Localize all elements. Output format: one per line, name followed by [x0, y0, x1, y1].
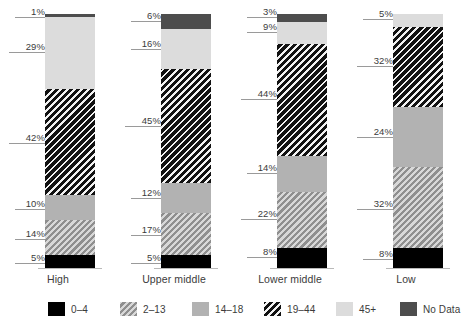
- legend-item[interactable]: No Data: [400, 300, 460, 318]
- legend-swatch-14-18: [192, 302, 209, 316]
- segment-value-label: 3%: [263, 6, 277, 17]
- legend-item[interactable]: 2–13: [120, 300, 166, 318]
- bar-segment-45[interactable]: [277, 22, 327, 45]
- callout-leader-line: [15, 209, 45, 210]
- callout-leader-line: [247, 17, 277, 18]
- stacked-bar[interactable]: [277, 14, 327, 268]
- segment-value-label: 17%: [142, 224, 161, 235]
- segment-value-label: 14%: [26, 228, 45, 239]
- bar-group: 1%29%42%10%14%5%High: [0, 0, 116, 292]
- bar-segment-2-13[interactable]: [161, 213, 211, 256]
- segment-value-label: 12%: [142, 187, 161, 198]
- callout-leader-line: [9, 52, 45, 53]
- bar-segment-45[interactable]: [45, 17, 95, 90]
- callout-leader-line: [247, 32, 277, 33]
- callout-leader-line: [15, 263, 45, 264]
- bar-segment-19-44[interactable]: [277, 44, 327, 156]
- bar-segment-19-44[interactable]: [161, 69, 211, 182]
- chart-legend: 0–42–1314–1819–4445+No Data: [0, 300, 465, 324]
- stacked-bar[interactable]: [161, 14, 211, 268]
- callout-leader-line: [9, 143, 45, 144]
- callout-leader-line: [357, 137, 393, 138]
- legend-label: No Data: [423, 304, 460, 315]
- segment-value-label: 29%: [26, 41, 45, 52]
- callout-leader-line: [15, 17, 45, 18]
- stacked-bar-chart: 1%29%42%10%14%5%High6%16%45%12%17%5%Uppe…: [0, 0, 465, 332]
- segment-value-label: 42%: [26, 132, 45, 143]
- stacked-bar[interactable]: [393, 14, 443, 268]
- segment-value-label: 8%: [379, 248, 393, 259]
- bar-segment-2-13[interactable]: [393, 167, 443, 247]
- bar-segment-19-44[interactable]: [45, 89, 95, 195]
- bar-segment-no-data[interactable]: [161, 14, 211, 29]
- bar-baseline: [386, 268, 450, 269]
- bar-segment-45[interactable]: [161, 29, 211, 69]
- segment-value-label: 16%: [142, 38, 161, 49]
- callout-leader-line: [131, 49, 161, 50]
- bar-group: 6%16%45%12%17%5%Upper middle: [116, 0, 232, 292]
- legend-item[interactable]: 19–44: [264, 300, 315, 318]
- legend-label: 0–4: [71, 304, 88, 315]
- legend-label: 19–44: [287, 304, 315, 315]
- bar-segment-no-data[interactable]: [277, 14, 327, 22]
- callout-leader-line: [357, 209, 393, 210]
- callout-leader-line: [131, 21, 161, 22]
- segment-value-label: 5%: [31, 252, 45, 263]
- segment-value-label: 45%: [142, 115, 161, 126]
- legend-swatch-no-data: [400, 302, 417, 316]
- bar-segment-2-13[interactable]: [45, 220, 95, 255]
- bar-segment-14-18[interactable]: [45, 195, 95, 220]
- bar-segment-19-44[interactable]: [393, 27, 443, 107]
- segment-value-label: 8%: [263, 246, 277, 257]
- callout-leader-line: [131, 198, 161, 199]
- legend-swatch-0-4: [48, 302, 65, 316]
- callout-leader-line: [15, 239, 45, 240]
- category-label: Low: [348, 273, 464, 285]
- category-label: Upper middle: [116, 273, 232, 285]
- legend-label: 14–18: [215, 304, 243, 315]
- segment-value-label: 10%: [26, 198, 45, 209]
- callout-leader-line: [241, 99, 277, 100]
- bar-segment-14-18[interactable]: [161, 183, 211, 213]
- bar-baseline: [38, 268, 102, 269]
- callout-leader-line: [247, 173, 277, 174]
- legend-item[interactable]: 0–4: [48, 300, 88, 318]
- segment-value-label: 5%: [147, 252, 161, 263]
- segment-value-label: 9%: [263, 21, 277, 32]
- callout-leader-line: [131, 235, 161, 236]
- callout-leader-line: [357, 66, 393, 67]
- legend-item[interactable]: 14–18: [192, 300, 243, 318]
- callout-leader-line: [131, 263, 161, 264]
- plot-area: 1%29%42%10%14%5%High6%16%45%12%17%5%Uppe…: [0, 0, 465, 292]
- bar-segment-0-4[interactable]: [277, 248, 327, 268]
- callout-leader-line: [363, 259, 393, 260]
- bar-segment-14-18[interactable]: [277, 156, 327, 192]
- bar-segment-45[interactable]: [393, 14, 443, 27]
- legend-label: 45+: [359, 304, 376, 315]
- category-label: Lower middle: [232, 273, 348, 285]
- bar-group: 5%32%24%32%8%Low: [348, 0, 464, 292]
- bar-segment-0-4[interactable]: [393, 248, 443, 268]
- callout-leader-line: [125, 126, 161, 127]
- callout-leader-line: [247, 257, 277, 258]
- segment-value-label: 1%: [31, 6, 45, 17]
- stacked-bar[interactable]: [45, 14, 95, 268]
- segment-value-label: 24%: [374, 126, 393, 137]
- callout-leader-line: [363, 19, 393, 20]
- legend-swatch-45: [336, 302, 353, 316]
- bar-segment-0-4[interactable]: [161, 255, 211, 268]
- bar-segment-2-13[interactable]: [277, 192, 327, 248]
- category-label: High: [0, 273, 116, 285]
- bar-segment-0-4[interactable]: [45, 255, 95, 268]
- bar-baseline: [154, 268, 218, 269]
- segment-value-label: 14%: [258, 162, 277, 173]
- segment-value-label: 32%: [374, 198, 393, 209]
- bar-segment-14-18[interactable]: [393, 107, 443, 167]
- segment-value-label: 6%: [147, 10, 161, 21]
- legend-item[interactable]: 45+: [336, 300, 376, 318]
- legend-swatch-2-13: [120, 302, 137, 316]
- segment-value-label: 5%: [379, 8, 393, 19]
- callout-leader-line: [241, 219, 277, 220]
- legend-label: 2–13: [143, 304, 166, 315]
- bar-baseline: [270, 268, 334, 269]
